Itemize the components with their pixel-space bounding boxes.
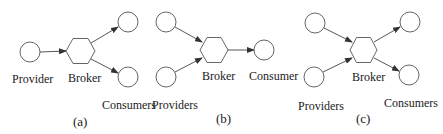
caption-c: (c) (356, 112, 370, 125)
edge-broker-to-consumer-1 (91, 27, 118, 43)
edge-provider-2-to-broker (323, 58, 352, 72)
provider-node-2 (304, 67, 324, 87)
edge-provider-1-to-broker (175, 27, 202, 42)
provider-node-1 (156, 12, 176, 32)
consumers-label: Consumers (384, 97, 438, 109)
broker-hexagon (66, 39, 95, 64)
consumer-node-2 (399, 65, 419, 85)
provider-node-2 (156, 67, 176, 87)
edge-provider-2-to-broker (175, 58, 202, 72)
provider-node-1 (305, 13, 325, 33)
edge-broker-to-consumer-1 (374, 27, 400, 42)
caption-b: (b) (216, 112, 231, 125)
consumer-node-2 (118, 67, 138, 87)
consumers-label: Consumers (102, 99, 156, 111)
provider-label: Provider (12, 73, 53, 85)
broker-label: Broker (352, 71, 385, 83)
broker-label: Broker (202, 70, 235, 82)
consumer-node (254, 40, 274, 60)
broker-hexagon (200, 38, 228, 63)
edge-provider-to-broker (40, 51, 66, 52)
consumer-node-1 (400, 12, 420, 32)
broker-label: Broker (68, 72, 101, 84)
provider-node (20, 42, 40, 62)
providers-label: Providers (152, 99, 198, 111)
caption-a: (a) (73, 115, 87, 128)
consumer-node-1 (118, 12, 138, 32)
providers-label: Providers (298, 100, 344, 112)
consumer-label: Consumer (249, 70, 298, 82)
broker-hexagon (350, 38, 377, 63)
edge-provider-1-to-broker (324, 28, 352, 42)
